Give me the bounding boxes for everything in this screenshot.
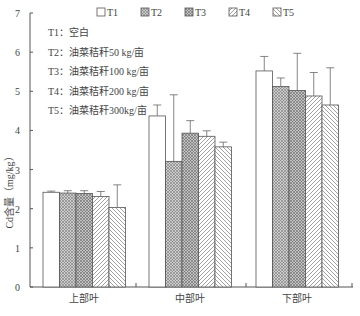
note-line: T4：油菜秸秆200 kg/亩 — [48, 85, 149, 97]
legend: T1T2T3T4T5 — [97, 7, 294, 18]
bar-t1 — [149, 116, 166, 287]
y-tick-label: 7 — [15, 8, 20, 19]
bar-t2 — [60, 193, 77, 287]
y-tick-label: 3 — [15, 165, 20, 176]
bar-t5 — [322, 105, 339, 287]
y-tick-label: 4 — [15, 125, 20, 136]
note-line: T5：油菜秸秆300kg/亩 — [48, 104, 147, 116]
legend-label-t4: T4 — [239, 7, 250, 18]
bar-t4 — [93, 197, 110, 287]
bar-t3 — [289, 91, 306, 287]
legend-label-t5: T5 — [283, 7, 294, 18]
bar-t3 — [76, 193, 93, 287]
legend-label-t2: T2 — [151, 7, 162, 18]
x-category-label: 中部叶 — [175, 292, 205, 304]
legend-label-t1: T1 — [107, 7, 118, 18]
bar-t4 — [306, 96, 323, 287]
x-category-label: 上部叶 — [69, 292, 99, 304]
note-line: T2：油菜秸秆50 kg/亩 — [48, 46, 144, 58]
note-line: T1：空白 — [48, 26, 89, 38]
bar-t4 — [199, 136, 216, 287]
legend-label-t3: T3 — [195, 7, 206, 18]
bar-t2 — [273, 87, 290, 287]
bar-t3 — [182, 133, 199, 287]
y-tick-label: 5 — [15, 86, 20, 97]
y-tick-label: 2 — [15, 204, 20, 215]
legend-swatch-t2 — [141, 8, 149, 16]
y-tick-label: 1 — [15, 243, 20, 254]
legend-swatch-t1 — [97, 8, 105, 16]
bar-t2 — [166, 161, 183, 287]
treatment-notes: T1：空白T2：油菜秸秆50 kg/亩T3：油菜秸秆100 kg/亩T4：油菜秸… — [48, 26, 149, 116]
legend-swatch-t5 — [273, 8, 281, 16]
bar-t5 — [215, 147, 232, 287]
x-category-label: 下部叶 — [282, 292, 312, 304]
legend-swatch-t3 — [185, 8, 193, 16]
legend-swatch-t4 — [229, 8, 237, 16]
bar-t5 — [109, 208, 126, 287]
note-line: T3：油菜秸秆100 kg/亩 — [48, 65, 149, 77]
y-axis-label: Cd含量（mg/kg） — [3, 151, 15, 228]
y-tick-label: 0 — [15, 282, 20, 293]
y-tick-label: 6 — [15, 47, 20, 58]
bar-t1 — [256, 71, 273, 287]
bar-t1 — [43, 192, 60, 287]
bar-chart: 01234567Cd含量（mg/kg） 上部叶中部叶下部叶 T1T2T3T4T5… — [0, 0, 360, 316]
